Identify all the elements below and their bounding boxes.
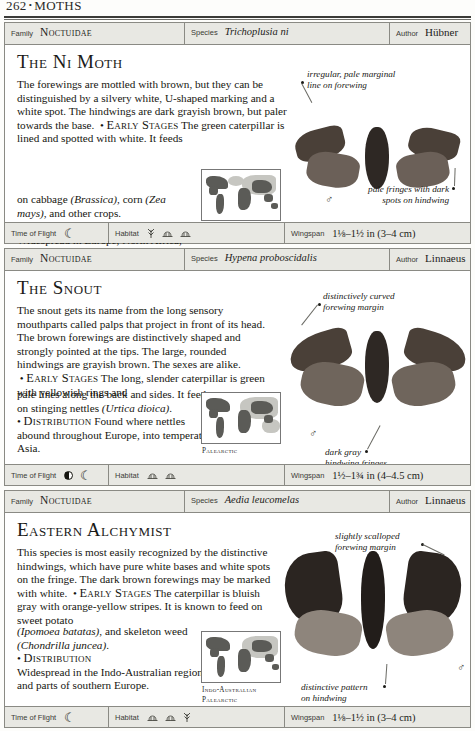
running-head: 262•MOTHS — [6, 0, 82, 14]
taxon-strip: Family Noctuidae Species Aedia leucomela… — [5, 491, 470, 513]
annotation-forewing: irregular, pale marginal line on forewin… — [307, 69, 395, 90]
taxon-author-cell: Author Linnaeus — [390, 249, 470, 270]
bullet-glyph-2: • — [17, 652, 24, 664]
taxon-author-cell: Author Hübner — [390, 23, 470, 44]
taxon-family-cell: Family Noctuidae — [5, 491, 185, 512]
half-moon-icon — [64, 471, 73, 480]
bullet-glyph-2: • — [17, 415, 24, 427]
grass-tuft-icon — [183, 712, 191, 722]
moth-illustration — [287, 319, 469, 437]
crescent-moon-icon: ☾ — [80, 469, 92, 482]
habitat-icons — [147, 712, 191, 722]
taxon-family-cell: Family Noctuidae — [5, 23, 185, 44]
leader-dot — [365, 450, 368, 453]
header-rule-thin — [4, 19, 471, 20]
time-of-flight-cell: Time of Flight ☾ — [5, 223, 109, 243]
distribution-heading: Distribution — [24, 414, 92, 428]
time-of-flight-icons: ☾ — [64, 227, 76, 240]
panel-body: The Snout The snout gets its name from t… — [5, 271, 470, 463]
habitat-label: Habitat — [115, 471, 139, 480]
distribution-map — [201, 169, 281, 221]
family-value: Noctuidae — [40, 26, 92, 38]
habitat-icons — [147, 228, 191, 238]
bullet-glyph: • — [70, 587, 79, 599]
annotation-line-2: spots on hindwing — [297, 195, 449, 206]
map-caption-line-1: Indo-Australian — [202, 686, 294, 696]
habitat-cell: Habitat — [109, 465, 285, 485]
food-plant-latin-2: (Chondrilla juncea) — [17, 639, 106, 651]
map-caption: Indo-Australian Palearctic — [202, 686, 294, 705]
early-stages-heading: Early Stages — [80, 586, 152, 600]
annotation-line-1: dark gray — [325, 447, 387, 458]
species-label: Species — [191, 496, 218, 505]
taxon-family-cell: Family Noctuidae — [5, 249, 185, 270]
shrub-icon — [147, 714, 158, 721]
species-label: Species — [191, 254, 218, 263]
time-of-flight-cell: Time of Flight ☾ — [5, 707, 109, 727]
wingspan-value: 1½–1¾ in (4–4.5 cm) — [332, 470, 423, 481]
distribution-heading: Distribution — [24, 651, 92, 665]
annotation-line-2: line on forewing — [307, 80, 395, 91]
shrub-icon — [147, 472, 158, 479]
annotation-line-1: pale fringes with dark — [297, 184, 449, 195]
page-number: 262 — [6, 0, 27, 13]
description-block: The snout gets its name from the long se… — [17, 304, 275, 399]
annotation-hindwing: pale fringes with dark spots on hindwing — [297, 184, 449, 205]
page-title: The Snout — [17, 277, 102, 299]
food-plant-latin-1: (Urtica dioica) — [102, 402, 169, 414]
taxon-species-cell: Species Hypena proboscidalis — [185, 249, 390, 270]
family-label: Family — [11, 29, 33, 38]
description-block-2: pale lines along the back and sides. It … — [17, 388, 217, 456]
leader-dot — [318, 303, 321, 306]
food-plant-post: . — [106, 639, 109, 651]
habitat-cell: Habitat — [109, 223, 285, 243]
data-strip: Time of Flight ☾ Habitat — [5, 706, 470, 727]
annotation-forewing: slightly scalloped forewing margin — [335, 531, 400, 552]
leader-dot — [383, 685, 386, 688]
annotation-line-2: on hindwing — [301, 693, 368, 704]
habitat-cell: Habitat — [109, 707, 285, 727]
time-of-flight-icons: ☾ — [64, 711, 76, 724]
distribution-map — [201, 392, 281, 444]
author-value: Linnaeus — [425, 252, 465, 264]
leader-dot — [452, 187, 455, 190]
page-title: The Ni Moth — [17, 51, 123, 73]
food-plant-post: . — [169, 402, 172, 414]
annotation-forewing: distinctively curved forewing margin — [323, 291, 395, 312]
data-strip: Time of Flight ☾ Habitat — [5, 222, 470, 243]
taxon-author-cell: Author Linnaeus — [390, 491, 470, 512]
species-panel-eastern-alchymist: Family Noctuidae Species Aedia leucomela… — [4, 490, 471, 728]
header-rule-thick — [4, 16, 471, 18]
wingspan-label: Wingspan — [291, 713, 324, 722]
wingspan-cell: Wingspan 1⅛–1½ in (3–4 cm) — [285, 223, 470, 243]
food-plant-mid: , and skeleton weed — [99, 625, 187, 637]
annotation-line-1: slightly scalloped — [335, 531, 400, 542]
annotation-line-1: distinctively curved — [323, 291, 395, 302]
description-text: The snout gets its name from the long se… — [17, 304, 265, 370]
taxon-species-cell: Species Aedia leucomelas — [185, 491, 390, 512]
description-block: This species is most easily recognized b… — [17, 546, 280, 628]
food-plant-mid: , corn — [117, 193, 145, 205]
wingspan-value: 1⅛–1½ in (3–4 cm) — [332, 712, 415, 723]
panel-body: Eastern Alchymist This species is most e… — [5, 513, 470, 705]
author-label: Author — [396, 255, 418, 264]
family-value: Noctuidae — [40, 252, 92, 264]
author-value: Linnaeus — [425, 494, 465, 506]
time-of-flight-label: Time of Flight — [11, 471, 56, 480]
food-plant-latin-1: (Brassica) — [70, 193, 117, 205]
crescent-moon-icon: ☾ — [64, 711, 76, 724]
distribution-text: Widespread in the Indo-Australian region… — [17, 666, 203, 692]
habitat-icons — [147, 472, 176, 479]
bullet-glyph: • — [17, 372, 26, 384]
shrub-icon — [165, 714, 176, 721]
annotation-hindwing: distinctive pattern on hindwing — [301, 682, 368, 703]
section-title: MOTHS — [34, 0, 82, 13]
food-plant-latin-1: (Ipomoea batatas) — [17, 625, 99, 637]
time-of-flight-cell: Time of Flight ☾ — [5, 465, 109, 485]
crescent-moon-icon: ☾ — [64, 227, 76, 240]
time-of-flight-label: Time of Flight — [11, 713, 56, 722]
annotation-line-1: irregular, pale marginal — [307, 69, 395, 80]
early-stages-heading: Early Stages — [26, 371, 98, 385]
sex-symbol-male: ♂ — [309, 427, 317, 439]
species-value: Aedia leucomelas — [225, 494, 299, 505]
